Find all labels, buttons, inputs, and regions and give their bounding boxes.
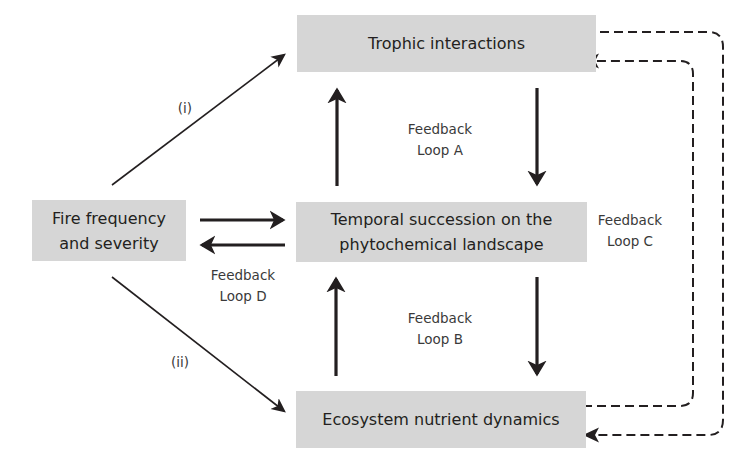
feedback-loop-c-label: Feedback Loop C xyxy=(580,210,680,252)
node-trophic-interactions: Trophic interactions xyxy=(297,15,596,72)
label-line2: Loop A xyxy=(380,140,500,161)
node-label-line1: Temporal succession on the xyxy=(331,207,553,232)
node-ecosystem-nutrient-dynamics: Ecosystem nutrient dynamics xyxy=(296,391,586,448)
label-line2: Loop C xyxy=(580,231,680,252)
feedback-loop-d-label: Feedback Loop D xyxy=(183,265,303,307)
label-line1: Feedback xyxy=(580,210,680,231)
node-label: Ecosystem nutrient dynamics xyxy=(322,407,559,432)
feedback-loop-b-label: Feedback Loop B xyxy=(380,308,500,350)
label-line2: Loop B xyxy=(380,329,500,350)
label-line1: Feedback xyxy=(183,265,303,286)
label-line1: Feedback xyxy=(380,119,500,140)
node-label-line1: Fire frequency xyxy=(52,206,166,231)
node-label: Trophic interactions xyxy=(368,31,525,56)
node-fire-frequency-severity: Fire frequency and severity xyxy=(32,200,186,261)
node-temporal-succession: Temporal succession on the phytochemical… xyxy=(296,202,587,262)
path-i-label: (i) xyxy=(160,98,210,119)
node-label-line2: phytochemical landscape xyxy=(339,232,543,257)
arrow-fire-to-trophic xyxy=(112,55,284,185)
node-label-line2: and severity xyxy=(59,231,158,256)
label-line1: Feedback xyxy=(380,308,500,329)
label-line2: Loop D xyxy=(183,286,303,307)
feedback-loop-a-label: Feedback Loop A xyxy=(380,119,500,161)
path-ii-label: (ii) xyxy=(155,352,205,373)
